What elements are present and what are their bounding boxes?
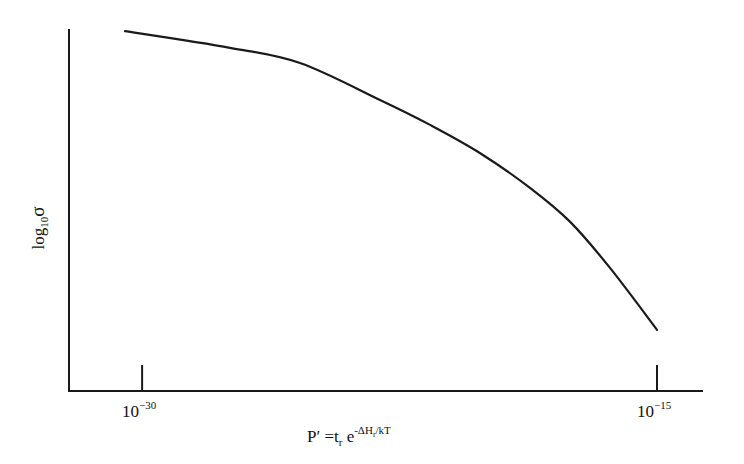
y-label-sub: 10	[38, 216, 50, 228]
x-label-exp-base: e	[342, 427, 354, 446]
chart: 10−3010−15 P′ =tr e-ΔHr/kT log10σ	[0, 0, 744, 464]
x-label-exp-tail: /kT	[376, 424, 392, 436]
data-curve	[125, 31, 657, 330]
x-tick-label-base: 10	[637, 402, 654, 421]
x-tick-label-base: 10	[122, 402, 139, 421]
x-tick-labels: 10−3010−15	[122, 399, 672, 421]
x-label-exp: -ΔH	[354, 424, 373, 436]
x-label-base: P′ =t	[307, 427, 339, 446]
axes	[68, 29, 703, 392]
x-tick-label-exponent: −15	[654, 399, 672, 411]
x-axis-label: P′ =tr e-ΔHr/kT	[307, 424, 391, 448]
x-tick-label-0: 10−30	[122, 399, 157, 421]
x-ticks	[142, 365, 657, 391]
y-label-base: log	[29, 227, 48, 249]
y-label-symbol: σ	[27, 207, 48, 217]
y-axis-label: log10σ	[27, 207, 50, 250]
x-tick-label-exponent: −30	[139, 399, 157, 411]
x-tick-label-1: 10−15	[637, 399, 672, 421]
